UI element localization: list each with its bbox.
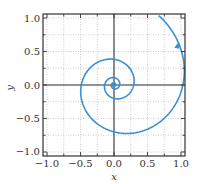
x-tick-label: 0.5	[140, 158, 156, 169]
y-tick-labels: −1.0−0.50.00.51.0	[16, 13, 40, 158]
fixed-point-marker	[112, 83, 116, 87]
y-axis-label: y	[4, 85, 15, 92]
x-tick-label: −1.0	[35, 158, 59, 169]
y-tick-label: 1.0	[24, 13, 40, 24]
y-tick-label: 0.5	[24, 46, 40, 57]
x-tick-label: 1.0	[173, 158, 189, 169]
y-tick-label: 0.0	[24, 80, 40, 91]
spiral-phase-plot: −1.0−0.50.00.51.0 −1.0−0.50.00.51.0 x y	[0, 0, 197, 184]
y-tick-label: −0.5	[16, 113, 40, 124]
x-tick-label: −0.5	[68, 158, 92, 169]
spiral-curve	[81, 16, 185, 134]
x-tick-label: 0.0	[106, 158, 122, 169]
y-tick-label: −1.0	[16, 146, 40, 157]
x-axis-label: x	[111, 171, 117, 182]
x-tick-labels: −1.0−0.50.00.51.0	[35, 158, 189, 169]
